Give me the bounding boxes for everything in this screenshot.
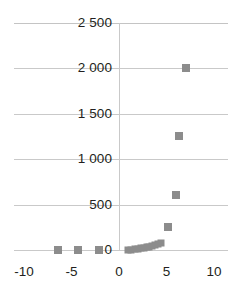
data-point (157, 239, 164, 246)
y-tick-label-1500: 1 500 (0, 107, 116, 121)
data-point (95, 246, 103, 254)
data-point (164, 223, 172, 231)
data-point (172, 191, 180, 199)
data-point (182, 64, 190, 72)
y-tick-label-1000: 1 000 (0, 152, 116, 166)
scatter-chart: 05001 0001 5002 0002 500 -10-50510 (0, 0, 232, 302)
data-point (74, 246, 82, 254)
data-point (175, 132, 183, 140)
x-tick-label-10: 10 (206, 265, 221, 279)
x-tick-label--10: -10 (14, 265, 34, 279)
y-tick-label-500: 500 (0, 198, 116, 212)
x-tick-label-5: 5 (163, 265, 171, 279)
y-tick-label-2500: 2 500 (0, 16, 116, 30)
y-tick-label-2000: 2 000 (0, 61, 116, 75)
data-point (54, 246, 62, 254)
y-axis-line (119, 23, 120, 251)
x-tick-label--5: -5 (65, 265, 77, 279)
x-tick-label-0: 0 (115, 265, 123, 279)
plot-area: 05001 0001 5002 0002 500 -10-50510 (0, 0, 232, 302)
